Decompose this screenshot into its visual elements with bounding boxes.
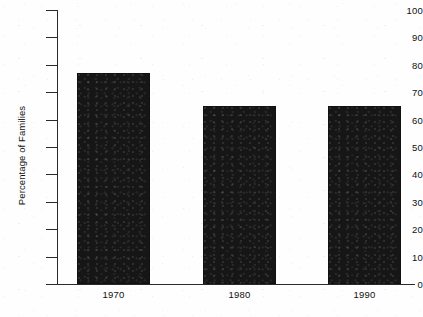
y-axis-line (57, 10, 58, 285)
y-axis-tick (46, 37, 57, 38)
x-axis-tick-label: 1980 (229, 289, 251, 300)
y-axis-tick (46, 147, 57, 148)
y-axis-tick-label: 100 (381, 5, 423, 16)
x-axis-tick-label: 1970 (103, 289, 125, 300)
y-axis-tick (46, 257, 57, 258)
x-axis-tick-label: 1990 (354, 289, 376, 300)
y-axis-tick (46, 92, 57, 93)
y-axis-tick (46, 284, 57, 285)
y-axis-tick (46, 229, 57, 230)
bar-chart-figure: Percentage of Families 01020304050607080… (0, 0, 423, 317)
y-axis-tick (46, 65, 57, 66)
y-axis-tick (46, 120, 57, 121)
bar-1980 (203, 106, 276, 284)
y-axis-title: Percentage of Families (16, 66, 27, 246)
y-axis-tick (46, 174, 57, 175)
y-axis-tick (46, 10, 57, 11)
bar-1970 (77, 73, 150, 284)
x-axis-line (57, 284, 415, 285)
y-axis-tick-label: 80 (381, 59, 423, 70)
y-axis-tick-label: 90 (381, 32, 423, 43)
bar-1990 (328, 106, 401, 284)
y-axis-tick-label: 70 (381, 87, 423, 98)
y-axis-tick (46, 202, 57, 203)
figure-caption-clipped (62, 306, 414, 317)
